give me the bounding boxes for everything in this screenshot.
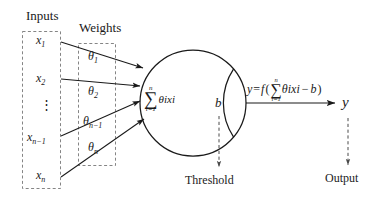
summation-lower-limit: i=1: [146, 106, 156, 113]
weight-theta1-subscript: 1: [94, 56, 98, 65]
formula-minus: −: [300, 82, 311, 97]
weights-group-heading: Weights: [79, 21, 121, 34]
input-label-xn: xn: [36, 169, 45, 181]
neuron-diagram-figure: Inputs Weights x1 x2 ⋮ xn−1 xn θ1 θ2 θn−…: [0, 0, 379, 204]
input-xn-subscript: n: [41, 175, 45, 184]
input-label-x1: x1: [36, 34, 45, 46]
bias-region-arc: [223, 69, 233, 137]
weight-label-theta-n-1: θn−1: [83, 115, 102, 127]
input-label-xn-1: xn−1: [27, 131, 46, 143]
weight-label-theta1: θ1: [88, 50, 98, 62]
weight-label-theta2: θ2: [88, 85, 98, 97]
output-y-label: y: [342, 95, 349, 110]
input-label-x2: x2: [36, 72, 45, 84]
summation-term: θixi: [159, 93, 175, 105]
formula-close-paren: ): [317, 82, 323, 97]
weight-theta-n-1-subscript: n−1: [89, 121, 102, 130]
output-formula: y = f ( n ∑ i=1 θixi − b ): [247, 77, 323, 103]
formula-lower-limit: i=1: [271, 96, 280, 103]
edge-x1-to-neuron: [61, 42, 143, 68]
bias-label: b: [215, 96, 222, 109]
inputs-group-heading: Inputs: [26, 9, 59, 22]
output-caption: Output: [325, 172, 358, 184]
input-x1-subscript: 1: [41, 40, 45, 49]
weight-theta2-subscript: 2: [94, 91, 98, 100]
weight-label-theta-n: θn: [88, 141, 98, 153]
inputs-vertical-ellipsis: ⋮: [40, 98, 53, 111]
weight-theta-n-subscript: n: [94, 147, 98, 156]
input-xn-1-subscript: n−1: [32, 137, 45, 146]
edge-x2-to-neuron: [61, 79, 140, 86]
input-x2-subscript: 2: [41, 78, 45, 87]
formula-equals: =: [252, 82, 261, 97]
summation-x-subscript: i: [172, 93, 175, 105]
edge-xn-to-neuron: [61, 119, 144, 177]
formula-summation: n ∑ i=1: [270, 77, 281, 103]
threshold-caption: Threshold: [185, 174, 234, 186]
summation-expression: n ∑ i=1 θixi: [144, 85, 175, 113]
